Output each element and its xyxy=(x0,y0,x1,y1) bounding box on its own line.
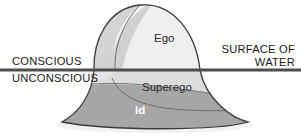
id-label: Id xyxy=(135,104,145,117)
surface-of-water-label: SURFACE OFWATER xyxy=(222,43,295,68)
superego-label: Superego xyxy=(142,81,192,94)
conscious-label: CONSCIOUS xyxy=(12,55,82,68)
unconscious-label: UNCONSCIOUS xyxy=(12,72,98,85)
surface-of-water-line1: SURFACE OF xyxy=(222,43,295,55)
iceberg-diagram: CONSCIOUS UNCONSCIOUS SURFACE OFWATER Eg… xyxy=(0,0,301,136)
surface-of-water-line2: WATER xyxy=(255,56,295,68)
ego-label: Ego xyxy=(154,32,174,45)
